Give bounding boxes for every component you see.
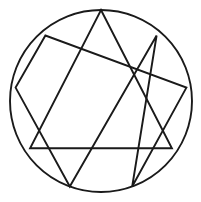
figure-background	[0, 0, 201, 202]
enneagram-figure: Enneagram Nine-pointed geometric figure …	[0, 0, 201, 202]
